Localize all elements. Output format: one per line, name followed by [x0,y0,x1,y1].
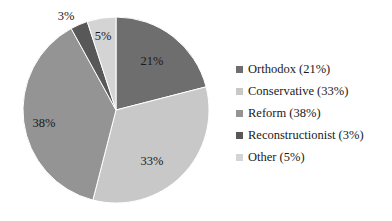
data-label-reform: 38% [33,116,56,130]
pie-plot-area: 21% 33% 38% 3% 5% [0,0,230,221]
pie-svg: 21% 33% 38% 3% 5% [0,0,230,221]
data-label-conservative: 33% [141,154,164,168]
pie-chart-figure: 21% 33% 38% 3% 5% Orthodox (21%) Conserv… [0,0,392,221]
pie-slice-group [23,17,209,203]
legend-label: Conservative (33%) [248,85,348,98]
legend-item-conservative[interactable]: Conservative (33%) [236,80,392,102]
data-label-other: 5% [95,29,112,43]
data-label-orthodox: 21% [141,54,164,68]
legend-label: Reform (38%) [248,107,321,120]
legend-item-reconstructionist[interactable]: Reconstructionist (3%) [236,124,392,146]
legend-swatch-icon [236,154,243,161]
legend-label: Orthodox (21%) [248,63,330,76]
chart-legend: Orthodox (21%) Conservative (33%) Reform… [236,58,392,168]
legend-label: Reconstructionist (3%) [248,129,364,142]
legend-label: Other (5%) [248,151,305,164]
data-label-reconstructionist: 3% [58,9,75,23]
legend-item-orthodox[interactable]: Orthodox (21%) [236,58,392,80]
legend-item-other[interactable]: Other (5%) [236,146,392,168]
legend-swatch-icon [236,66,243,73]
legend-swatch-icon [236,110,243,117]
legend-swatch-icon [236,88,243,95]
legend-item-reform[interactable]: Reform (38%) [236,102,392,124]
legend-swatch-icon [236,132,243,139]
